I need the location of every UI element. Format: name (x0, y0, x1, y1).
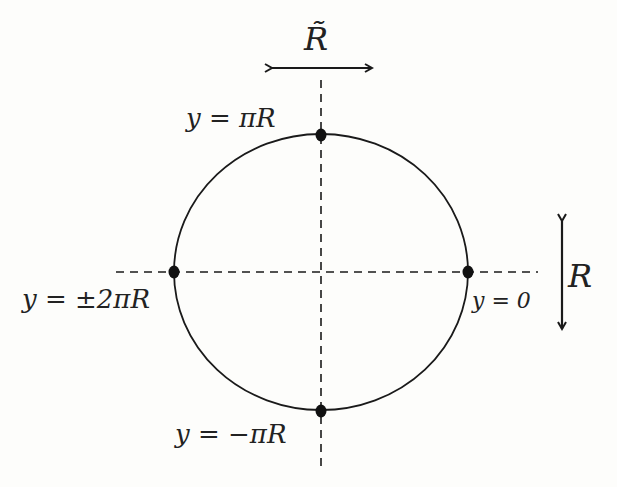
r-tilde-label: R̃ (303, 20, 328, 58)
top-point-label: y = πR (185, 103, 276, 133)
left-point-label: y = ±2πR (21, 284, 150, 314)
r-label: R (567, 257, 592, 295)
bottom-point-label: y = −πR (174, 419, 286, 449)
point-bottom (316, 405, 327, 418)
point-top (316, 129, 327, 142)
point-left (169, 266, 180, 279)
right-point-label: y = 0 (471, 288, 531, 313)
point-right (463, 266, 474, 279)
diagram-canvas: R̃ R y = πR y = ±2πR y = 0 y = −πR (0, 0, 617, 487)
